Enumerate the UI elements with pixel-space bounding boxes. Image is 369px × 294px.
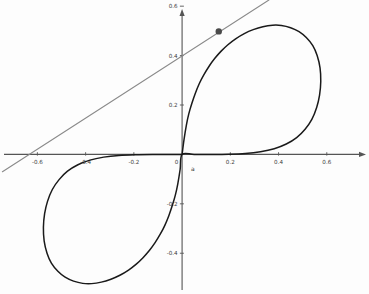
y-tick-label: 0.4 bbox=[169, 53, 178, 59]
annotations-group: a bbox=[191, 165, 195, 172]
y-tick-label: 0.6 bbox=[169, 3, 178, 9]
y-tick-label: 0.2 bbox=[169, 102, 178, 108]
x-tick-label: -0.6 bbox=[32, 159, 43, 165]
origin-parameter-label: a bbox=[191, 165, 195, 172]
plot-figure: -0.6-0.4-0.200.20.40.6 -0.4-0.20.20.40.6… bbox=[0, 0, 369, 294]
plot-canvas: -0.6-0.4-0.200.20.40.6 -0.4-0.20.20.40.6… bbox=[0, 0, 369, 294]
x-tick-label: -0.2 bbox=[128, 159, 139, 165]
tangency-point bbox=[216, 28, 222, 34]
x-tick-label: 0.4 bbox=[274, 159, 283, 165]
x-tick-label: 0.6 bbox=[322, 159, 331, 165]
x-tick-label: 0.2 bbox=[226, 159, 235, 165]
x-tick-label: 0 bbox=[175, 159, 179, 165]
plot-background bbox=[0, 0, 369, 294]
data-markers-group bbox=[216, 28, 222, 34]
y-tick-label: -0.4 bbox=[167, 250, 178, 256]
